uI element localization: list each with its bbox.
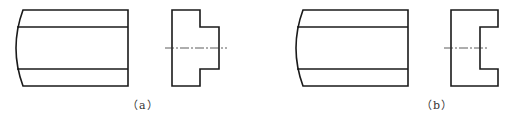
figure-a-front-view	[16, 10, 128, 86]
front-view-outline	[16, 10, 128, 86]
figure-a-side-view	[165, 10, 227, 86]
figure-a	[16, 10, 227, 86]
figure-b	[296, 10, 498, 86]
caption-a: （a）	[127, 96, 159, 112]
front-view-outline	[296, 10, 408, 86]
figure-b-front-view	[296, 10, 408, 86]
caption-b: （b）	[421, 96, 453, 112]
figure-b-side-view	[444, 10, 498, 86]
